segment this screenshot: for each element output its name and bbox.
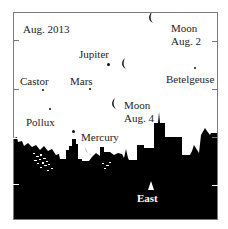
jupiter-label: Jupiter — [79, 48, 109, 61]
left-tick — [13, 138, 19, 139]
betelgeuse-marker — [194, 67, 196, 69]
castor-label: Castor — [20, 75, 49, 88]
pollux-marker — [49, 108, 51, 110]
moon-crescent-icon — [110, 97, 124, 111]
moon-aug2-label: Moon Aug. 2 — [171, 22, 201, 48]
right-tick — [212, 185, 218, 186]
sky-chart-frame: Aug. 2013 Moon Aug. 2 Jupiter Betelgeuse… — [13, 12, 218, 220]
betelgeuse-label: Betelgeuse — [166, 73, 214, 86]
left-tick — [13, 40, 19, 41]
castor-marker — [42, 89, 44, 91]
pollux-label: Pollux — [26, 116, 55, 129]
left-tick — [13, 184, 19, 185]
left-tick — [13, 89, 19, 90]
mercury-label: Mercury — [81, 131, 119, 144]
moon-crescent-icon — [120, 57, 134, 71]
chart-title: Aug. 2013 — [23, 23, 69, 36]
right-tick — [212, 41, 218, 42]
right-tick — [212, 137, 218, 138]
mars-marker — [89, 88, 91, 90]
mars-label: Mars — [70, 75, 93, 88]
moon-aug4-label: Moon Aug. 4 — [124, 99, 154, 125]
right-tick — [212, 89, 218, 90]
moon-crescent-icon — [147, 12, 161, 25]
moon-crescent-icon — [83, 145, 97, 159]
mercury-marker — [72, 130, 75, 133]
jupiter-marker — [107, 63, 110, 66]
east-direction-label: East — [137, 192, 158, 205]
